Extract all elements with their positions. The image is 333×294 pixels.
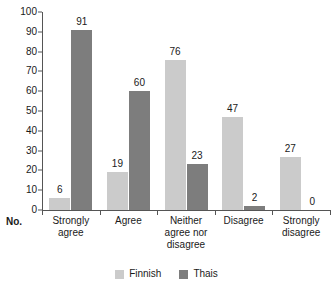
- bar-value-label: 6: [57, 185, 63, 195]
- bar-finnish-1: [107, 172, 128, 210]
- bar-thais-3: [244, 206, 265, 210]
- bar-chart: 1009080706050403020100 69119607623472270…: [0, 0, 333, 294]
- bar-thais-1: [129, 91, 150, 210]
- bar-value-label: 76: [169, 47, 180, 57]
- legend-item: Thais: [179, 269, 217, 279]
- x-axis-category-label-line: disagree: [267, 227, 333, 239]
- bar-thais-0: [71, 30, 92, 210]
- bar-value-label: 23: [191, 151, 202, 161]
- bar-thais-2: [187, 164, 208, 210]
- x-axis-category-label-line: disagree: [152, 239, 220, 251]
- legend-label: Thais: [193, 269, 217, 279]
- bar-finnish-4: [280, 157, 301, 210]
- x-axis-line: [42, 210, 331, 211]
- x-axis-category-label-line: Strongly: [267, 215, 333, 227]
- bar-value-label: 47: [227, 104, 238, 114]
- x-axis-category-label-line: agree: [37, 227, 105, 239]
- legend-item: Finnish: [115, 269, 161, 279]
- bar-value-label: 60: [134, 78, 145, 88]
- x-axis-category-label-line: agree nor: [152, 227, 220, 239]
- bar-value-label: 2: [252, 193, 258, 203]
- plot-area: [42, 12, 330, 210]
- legend-label: Finnish: [129, 269, 161, 279]
- bar-value-label: 0: [309, 197, 315, 207]
- bar-value-label: 19: [112, 159, 123, 169]
- bar-finnish-0: [49, 198, 70, 210]
- chart-legend: FinnishThais: [0, 269, 333, 279]
- x-axis-category-label: Stronglydisagree: [267, 215, 333, 239]
- legend-swatch-icon: [179, 270, 188, 279]
- bar-value-label: 91: [76, 17, 87, 27]
- bar-finnish-3: [222, 117, 243, 210]
- bar-finnish-2: [165, 60, 186, 210]
- legend-swatch-icon: [115, 270, 124, 279]
- bar-value-label: 27: [285, 144, 296, 154]
- axis-corner-label: No.: [6, 216, 22, 228]
